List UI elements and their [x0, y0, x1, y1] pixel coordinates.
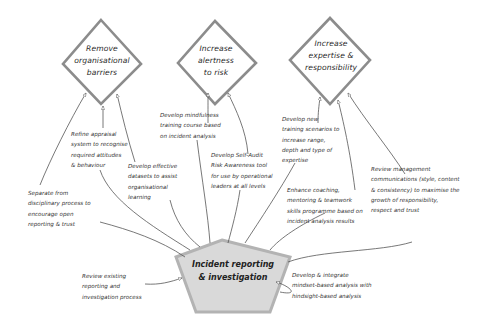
action-review-existing-process: Review existing reporting and investigat… [82, 271, 142, 302]
action-line: training scenarios to [282, 124, 339, 134]
center-incident-reporting: Incident reporting & investigation [180, 258, 286, 284]
action-line: Develop Self-Audit [211, 150, 273, 160]
action-line: Develop & integrate [292, 270, 372, 280]
action-line: growth of responsibility, [371, 195, 460, 205]
action-line: communications (style, content [371, 174, 460, 184]
action-line: skills programme based on [287, 206, 363, 216]
action-line: expertise [282, 155, 339, 165]
action-line: Develop new [282, 114, 339, 124]
action-line: for use by operational [211, 171, 273, 181]
action-line: Develop effective [128, 161, 177, 171]
action-line: & behaviour [71, 160, 128, 170]
action-line: leaders at all levels [211, 181, 273, 191]
action-line: incident analysis results [287, 216, 363, 226]
action-line: increase range, [282, 135, 339, 145]
goal-increase-expertise: Increase expertise & responsibility [292, 38, 370, 74]
action-line: Separate from [28, 188, 91, 198]
goal-line: Remove [66, 43, 138, 55]
goal-line: Increase [292, 38, 370, 50]
action-line: mentoring & teamwork [287, 195, 363, 205]
action-separate-disciplinary: Separate from disciplinary process to en… [28, 188, 91, 229]
action-line: reporting and [82, 281, 142, 291]
action-line: on incident analysis [160, 131, 221, 141]
goal-line: responsibility [292, 62, 370, 74]
action-line: organisational [128, 182, 177, 192]
action-develop-datasets: Develop effective datasets to assist org… [128, 161, 177, 202]
goal-remove-barriers: Remove organisational barriers [66, 43, 138, 79]
action-line: Review management [371, 164, 460, 174]
action-line: Refine appraisal [71, 129, 128, 139]
action-line: disciplinary process to [28, 198, 91, 208]
center-line: Incident reporting [180, 258, 286, 271]
action-line: hindsight-based analysis [292, 291, 372, 301]
action-line: training course based [160, 120, 221, 130]
action-line: mindset-based analysis with [292, 280, 372, 290]
center-line: & investigation [180, 271, 286, 284]
action-develop-training-scenarios: Develop new training scenarios to increa… [282, 114, 339, 165]
action-line: respect and trust [371, 205, 460, 215]
action-review-management-comms: Review management communications (style,… [371, 164, 460, 215]
goal-line: expertise & [292, 50, 370, 62]
goal-line: Increase [180, 43, 252, 55]
goal-line: organisational [66, 55, 138, 67]
action-line: learning [128, 192, 177, 202]
action-line: Review existing [82, 271, 142, 281]
goal-line: alertness [180, 55, 252, 67]
action-develop-mindfulness: Develop mindfulness training course base… [160, 110, 221, 141]
action-line: Risk Awareness tool [211, 160, 273, 170]
action-enhance-coaching: Enhance coaching, mentoring & teamwork s… [287, 185, 363, 226]
action-line: reporting & trust [28, 219, 91, 229]
action-line: datasets to assist [128, 171, 177, 181]
action-line: & consistency) to maximise the [371, 185, 460, 195]
action-line: investigation process [82, 292, 142, 302]
action-line: required attitudes [71, 150, 128, 160]
action-line: encourage open [28, 209, 91, 219]
action-line: system to recognise [71, 139, 128, 149]
action-refine-appraisal: Refine appraisal system to recognise req… [71, 129, 128, 170]
goal-line: to risk [180, 67, 252, 79]
goal-line: barriers [66, 67, 138, 79]
action-line: Enhance coaching, [287, 185, 363, 195]
action-line: Develop mindfulness [160, 110, 221, 120]
action-line: depth and type of [282, 145, 339, 155]
action-develop-mindset-analysis: Develop & integrate mindset-based analys… [292, 270, 372, 301]
action-develop-self-audit: Develop Self-Audit Risk Awareness tool f… [211, 150, 273, 191]
goal-increase-alertness: Increase alertness to risk [180, 43, 252, 79]
